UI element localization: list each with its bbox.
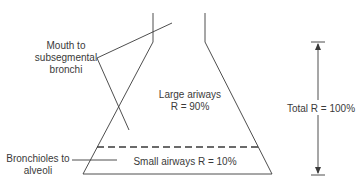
label-bronchioles-to-alveoli: Bronchioles to alveoli [6, 153, 70, 177]
label-line: Mouth to [34, 40, 98, 52]
label-line: alveoli [6, 165, 70, 177]
label-total-resistance: Total R = 100% [282, 103, 360, 115]
label-small-airways: Small airways R = 10% [130, 156, 240, 168]
label-line: Large ariways [150, 89, 230, 101]
label-line: bronchi [34, 64, 98, 76]
label-line: subsegmental [34, 52, 98, 64]
label-line: R = 90% [150, 101, 230, 113]
arrow-down-head-icon [315, 167, 321, 174]
label-line: Bronchioles to [6, 153, 70, 165]
label-large-airways: Large ariways R = 90% [150, 89, 230, 113]
label-mouth-to-subsegmental-bronchi: Mouth to subsegmental bronchi [34, 40, 98, 76]
label-line: Total R = 100% [283, 103, 359, 115]
arrow-up-head-icon [315, 43, 321, 50]
label-line: Small airways R = 10% [130, 156, 240, 168]
